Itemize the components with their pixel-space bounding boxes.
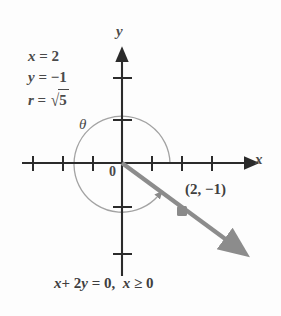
- parameter-x: x = 2: [28, 46, 69, 67]
- caption-equals-zero: = 0,: [92, 275, 116, 291]
- caption-constraint-variable: x: [123, 275, 131, 291]
- parameter-r: r = √5: [28, 89, 69, 111]
- radicand-value: 5: [58, 89, 69, 111]
- parameter-y-variable: y: [28, 69, 35, 85]
- caption-plus-term: + 2: [62, 275, 82, 291]
- caption-x-term: x: [54, 275, 62, 291]
- origin-label: 0: [109, 165, 116, 179]
- parameter-y: y = −1: [28, 67, 69, 88]
- figure-container: x = 2 y = −1 r = √5 y x 0 θ (2, −1) x+ 2…: [0, 0, 281, 316]
- point-coordinate-label: (2, −1): [185, 182, 226, 197]
- caption-constraint: ≥ 0: [134, 275, 153, 291]
- square-root-expression: √5: [50, 89, 69, 111]
- y-axis-label: y: [116, 24, 123, 39]
- parameter-y-value: = −1: [38, 69, 66, 85]
- parameter-list: x = 2 y = −1 r = √5: [28, 46, 69, 111]
- x-axis-label: x: [255, 152, 263, 167]
- plotted-point-marker: [177, 206, 187, 216]
- parameter-r-equals: =: [38, 92, 47, 108]
- terminal-ray: [122, 163, 228, 241]
- parameter-x-variable: x: [28, 48, 36, 64]
- equation-caption: x+ 2y = 0, x ≥ 0: [54, 276, 154, 291]
- caption-y-term: y: [81, 275, 88, 291]
- radical-sign-icon: √: [51, 88, 59, 112]
- parameter-x-value: = 2: [39, 48, 59, 64]
- parameter-r-variable: r: [28, 92, 34, 108]
- theta-symbol-label: θ: [79, 117, 86, 132]
